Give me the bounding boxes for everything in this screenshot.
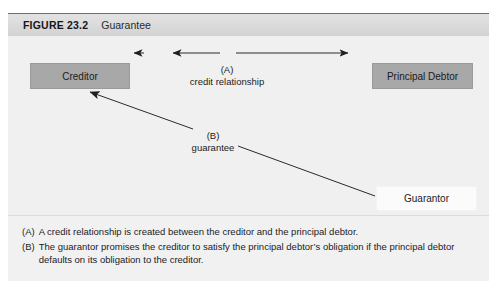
caption-b-marker: (B) [22,240,35,267]
edge-b-label: (B) guarantee [163,130,263,154]
edge-a-text: credit relationship [172,76,282,88]
node-creditor-label: Creditor [62,71,98,82]
edge-a-marker: (A) [172,64,282,76]
figure-caption: (A) A credit relationship is created bet… [8,216,489,281]
edge-a-label: (A) credit relationship [172,64,282,88]
diagram-canvas: Creditor Principal Debtor Guarantor (A) … [8,36,489,215]
edge-b-marker: (B) [163,130,263,142]
node-guarantor: Guarantor [376,186,477,211]
node-principal-debtor-label: Principal Debtor [387,71,458,82]
node-principal-debtor: Principal Debtor [372,63,473,89]
figure-container: FIGURE 23.2 Guarantee [8,13,489,281]
caption-a-text: A credit relationship is created between… [39,225,475,239]
figure-title: Guarantee [101,19,151,31]
caption-a-marker: (A) [22,225,35,239]
caption-line-b: (B) The guarantor promises the creditor … [22,240,475,267]
figure-number: FIGURE 23.2 [23,19,88,31]
node-creditor: Creditor [30,63,130,89]
node-guarantor-label: Guarantor [404,193,449,204]
caption-b-text: The guarantor promises the creditor to s… [39,240,475,267]
caption-line-a: (A) A credit relationship is created bet… [22,225,475,239]
figure-header: FIGURE 23.2 Guarantee [8,13,489,36]
edge-b-text: guarantee [163,142,263,154]
